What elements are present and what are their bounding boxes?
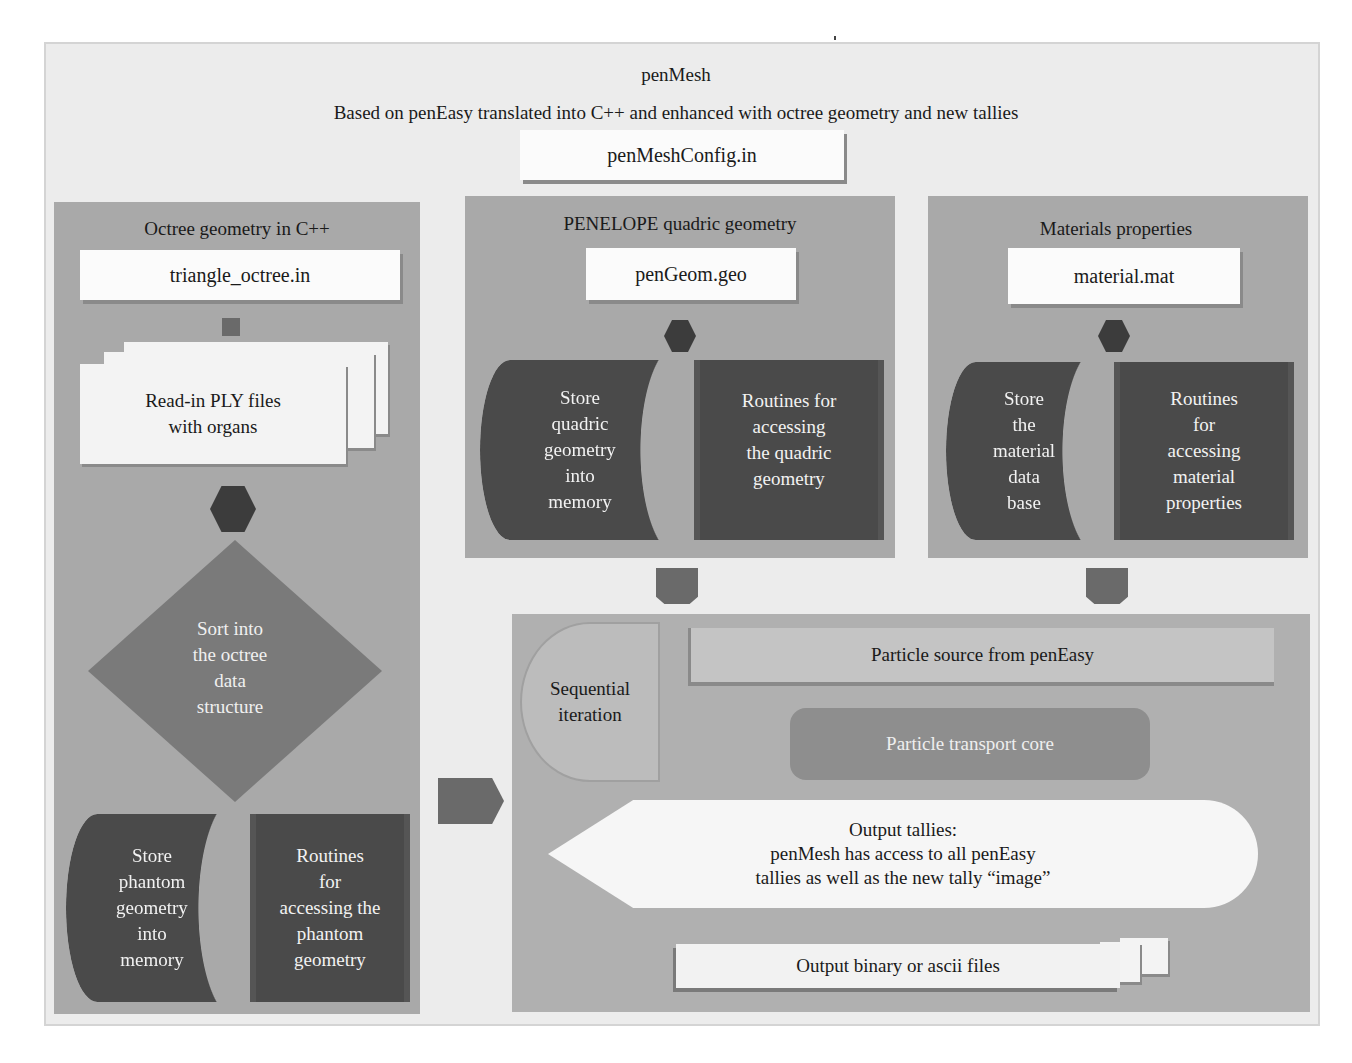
stray-mark (834, 36, 836, 40)
materials-panel-title: Materials properties (928, 218, 1304, 240)
diagram-title: penMesh (0, 64, 1352, 86)
quadric-panel-title: PENELOPE quadric geometry (465, 213, 895, 235)
store-quadric-line: geometry (544, 437, 616, 463)
ply-read-line-2: with organs (169, 414, 258, 440)
quadric-input-file: penGeom.geo (586, 248, 796, 300)
store-phantom-line: Store (132, 843, 172, 869)
store-material-line: the (1012, 412, 1035, 438)
routines-material-block: Routines for accessing material properti… (1114, 362, 1294, 540)
routines-material-line: Routines (1170, 386, 1238, 412)
routines-material-line: accessing (1168, 438, 1241, 464)
store-material-line: material (993, 438, 1055, 464)
connector-square (222, 318, 240, 336)
right-arrow-connector (438, 778, 504, 824)
diagram-subtitle: Based on penEasy translated into C++ and… (0, 102, 1352, 124)
routines-material-line: for (1193, 412, 1215, 438)
transport-core-label: Particle transport core (886, 733, 1054, 755)
output-files-node: Output binary or ascii files (676, 944, 1120, 988)
routines-quadric-line: the quadric (747, 440, 832, 466)
materials-input-file-label: material.mat (1074, 265, 1175, 288)
tallies-line: Output tallies: (849, 818, 957, 842)
routines-phantom-block: Routines for accessing the phantom geome… (250, 814, 410, 1002)
store-material-line: Store (1004, 386, 1044, 412)
routines-material-line: properties (1166, 490, 1242, 516)
transport-core-node: Particle transport core (790, 708, 1150, 780)
octree-input-file: triangle_octree.in (80, 250, 400, 300)
store-phantom-line: geometry (116, 895, 188, 921)
sort-line-3: data (150, 668, 310, 694)
store-quadric-line: into (565, 463, 595, 489)
quadric-input-file-label: penGeom.geo (635, 263, 747, 286)
routines-quadric-line: Routines for (742, 388, 836, 414)
routines-phantom-line: for (319, 869, 341, 895)
sort-line-2: the octree (150, 642, 310, 668)
store-quadric-line: quadric (552, 411, 609, 437)
ply-read-step: Read-in PLY files with organs (80, 364, 346, 464)
sort-decision-text: Sort into the octree data structure (150, 616, 310, 720)
tallies-line: tallies as well as the new tally “image” (756, 866, 1051, 890)
output-tallies-node: Output tallies: penMesh has access to al… (548, 800, 1258, 908)
store-phantom-line: into (137, 921, 167, 947)
store-material-line: data (1008, 464, 1040, 490)
store-quadric-line: Store (560, 385, 600, 411)
store-quadric-block: Store quadric geometry into memory (480, 360, 680, 540)
seq-line-2: iteration (550, 702, 630, 728)
particle-source-node: Particle source from penEasy (688, 628, 1274, 686)
store-quadric-line: memory (548, 489, 611, 515)
routines-quadric-line: accessing (753, 414, 826, 440)
store-phantom-block: Store phantom geometry into memory (66, 814, 238, 1002)
materials-input-file: material.mat (1008, 248, 1240, 304)
routines-material-line: material (1173, 464, 1235, 490)
sort-line-1: Sort into (150, 616, 310, 642)
particle-source-label: Particle source from penEasy (871, 644, 1094, 666)
routines-phantom-line: phantom (297, 921, 364, 947)
store-phantom-line: memory (120, 947, 183, 973)
store-material-line: base (1007, 490, 1041, 516)
ply-read-line-1: Read-in PLY files (145, 388, 281, 414)
routines-quadric-line: geometry (753, 466, 825, 492)
sort-line-4: structure (150, 694, 310, 720)
sequential-iteration-node: Sequential iteration (520, 622, 660, 782)
octree-panel-title: Octree geometry in C++ (54, 218, 420, 240)
routines-phantom-line: accessing the (280, 895, 381, 921)
store-phantom-line: phantom (119, 869, 186, 895)
config-file-node: penMeshConfig.in (520, 130, 844, 180)
store-material-block: Store the material data base (946, 362, 1102, 540)
routines-quadric-block: Routines for accessing the quadric geome… (694, 360, 884, 540)
down-arrow-connector (1086, 568, 1128, 604)
tallies-line: penMesh has access to all penEasy (770, 842, 1035, 866)
down-arrow-connector (656, 568, 698, 604)
routines-phantom-line: Routines (296, 843, 364, 869)
output-files-label: Output binary or ascii files (796, 955, 1000, 977)
config-file-label: penMeshConfig.in (607, 144, 756, 167)
routines-phantom-line: geometry (294, 947, 366, 973)
octree-input-file-label: triangle_octree.in (170, 264, 311, 287)
seq-line-1: Sequential (550, 676, 630, 702)
